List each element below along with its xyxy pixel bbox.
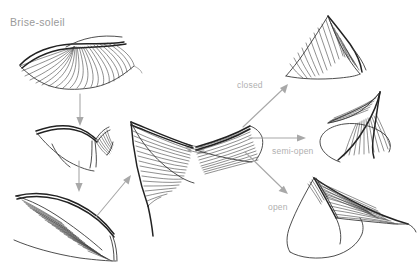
arrow-down-top-left bbox=[76, 94, 83, 126]
label-open: open bbox=[268, 202, 288, 212]
page-title: Brise-soleil bbox=[10, 16, 65, 28]
central-hypar-louvre-sketch bbox=[131, 122, 263, 236]
arrow-up-right-to-center bbox=[96, 175, 131, 217]
wing-open-fan-sketch bbox=[20, 36, 142, 89]
louvre-semi-open-sketch bbox=[320, 92, 390, 162]
arrow-center-to-open bbox=[245, 152, 288, 194]
label-semi-open: semi-open bbox=[272, 146, 314, 156]
arrow-center-to-closed bbox=[243, 84, 288, 127]
arrow-center-to-semi-open bbox=[249, 134, 306, 141]
label-closed: closed bbox=[237, 80, 263, 90]
louvre-open-sketch bbox=[287, 177, 416, 258]
wing-curved-hatched-sketch bbox=[14, 194, 117, 261]
louvre-closed-sketch bbox=[286, 16, 366, 79]
brise-soleil-diagram: Brise-soleil bbox=[0, 0, 420, 278]
wing-folded-sketch bbox=[36, 126, 113, 171]
diagram-canvas: Brise-soleil bbox=[0, 0, 420, 278]
